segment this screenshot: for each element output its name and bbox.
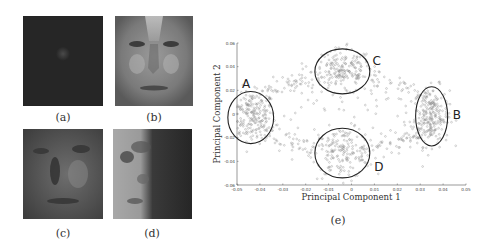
- y-tick-label: -0.02: [224, 135, 235, 140]
- y-tick-label: -0.04: [224, 159, 235, 164]
- x-tick-label: 0.03: [416, 187, 426, 192]
- cluster-ellipse-b: [416, 87, 448, 146]
- scatter-points: [236, 43, 457, 184]
- x-tick-label: 0.02: [393, 187, 403, 192]
- x-axis-title: Principal Component 1: [301, 192, 400, 202]
- y-tick-label: -0.06: [224, 183, 235, 188]
- cluster-label-b: B: [453, 108, 461, 122]
- cluster-ellipse-c: [315, 49, 370, 94]
- y-tick-label: 0.04: [226, 64, 236, 69]
- pca-scatter-plot: -0.05-0.04-0.03-0.02-0.0100.010.020.030.…: [0, 0, 491, 250]
- x-tick-label: -0.01: [323, 187, 334, 192]
- y-tick-label: 0: [232, 112, 235, 117]
- cluster-label-c: C: [372, 54, 380, 68]
- x-tick-label: -0.02: [300, 187, 311, 192]
- x-tick-label: -0.03: [277, 187, 288, 192]
- cluster-label-a: A: [242, 77, 251, 91]
- y-axis-title: Principal Component 2: [212, 64, 222, 163]
- cluster-label-d: D: [374, 160, 383, 174]
- x-tick-label: 0.01: [370, 187, 380, 192]
- x-tick-label: -0.04: [254, 187, 265, 192]
- x-tick-label: 0.05: [461, 187, 471, 192]
- caption-e: (e): [318, 214, 358, 227]
- x-tick-label: 0.04: [438, 187, 448, 192]
- x-tick-label: 0: [350, 187, 353, 192]
- y-tick-label: 0.02: [226, 88, 236, 93]
- y-tick-label: 0.06: [226, 41, 236, 46]
